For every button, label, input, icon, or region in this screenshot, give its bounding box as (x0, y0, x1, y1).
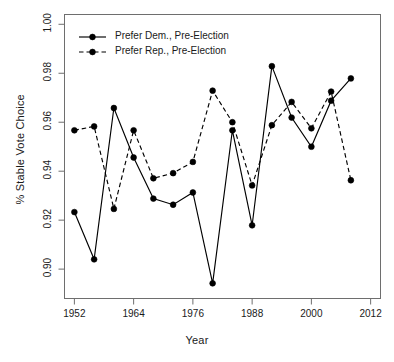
x-tick-label: 2012 (346, 308, 394, 319)
data-point (91, 256, 97, 262)
legend-item-prefer-rep: Prefer Rep., Pre-Election (115, 45, 226, 56)
data-point (249, 222, 255, 228)
data-point (289, 115, 295, 121)
axis-lines (65, 15, 381, 299)
data-point (269, 63, 275, 69)
data-point (269, 122, 275, 128)
data-point (111, 105, 117, 111)
y-axis-ticks (59, 24, 65, 269)
legend-line-samples (79, 34, 106, 55)
data-point (71, 209, 77, 215)
data-point (249, 182, 255, 188)
data-point (111, 206, 117, 212)
data-point (190, 190, 196, 196)
legend-marker (90, 49, 96, 55)
y-tick-label: 0.90 (42, 248, 53, 288)
data-series-layer (71, 63, 353, 286)
data-point (210, 280, 216, 286)
data-point (348, 177, 354, 183)
data-point (328, 89, 334, 95)
series-line-prefer-dem (74, 66, 351, 283)
data-point (308, 144, 314, 150)
x-axis-title: Year (0, 334, 394, 346)
data-point (150, 196, 156, 202)
data-point (308, 125, 314, 131)
chart-container: % Stable Vote Choice Year 0.900.920.940.… (0, 0, 394, 362)
data-point (170, 202, 176, 208)
data-point (289, 99, 295, 105)
x-tick-label: 1952 (49, 308, 99, 319)
data-point (71, 127, 77, 133)
y-tick-label: 1.00 (42, 3, 53, 43)
y-tick-label: 0.98 (42, 52, 53, 92)
x-tick-label: 1988 (227, 308, 277, 319)
y-tick-label: 0.92 (42, 199, 53, 239)
x-tick-label: 1964 (109, 308, 159, 319)
data-point (348, 76, 354, 82)
legend-item-prefer-dem: Prefer Dem., Pre-Election (115, 30, 229, 41)
data-point (229, 119, 235, 125)
data-point (170, 170, 176, 176)
y-axis-title: % Stable Vote Choice (14, 94, 26, 204)
x-tick-label: 2000 (286, 308, 336, 319)
x-axis-ticks (74, 299, 370, 305)
data-point (190, 159, 196, 165)
data-point (210, 88, 216, 94)
y-tick-label: 0.96 (42, 101, 53, 141)
y-tick-label: 0.94 (42, 150, 53, 190)
data-point (91, 123, 97, 129)
legend-marker (90, 34, 96, 40)
data-point (131, 127, 137, 133)
data-point (150, 175, 156, 181)
x-tick-label: 1976 (168, 308, 218, 319)
data-point (131, 155, 137, 161)
